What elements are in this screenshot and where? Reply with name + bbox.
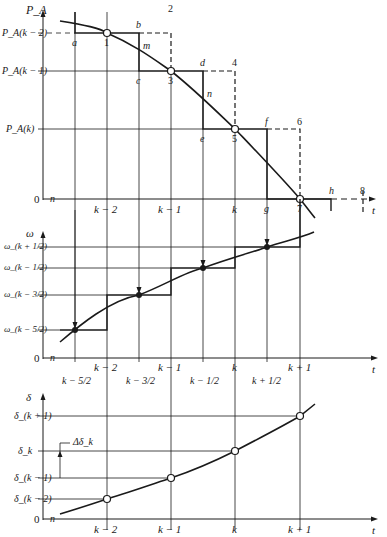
delta-delta-k-arrow bbox=[58, 451, 63, 457]
delta-y-axis-label: δ bbox=[26, 392, 31, 403]
pa-origin-label: 0 bbox=[34, 194, 40, 205]
omega-y-axis-label: ω bbox=[26, 228, 34, 239]
pa-step-dashed-4 bbox=[203, 71, 235, 129]
omega-tick-k-3/2: ω_(k − 3/2) bbox=[4, 290, 47, 299]
pa-curve bbox=[60, 21, 315, 218]
delta-x-tick-k: k bbox=[232, 524, 237, 535]
pa-tick-k-1: P_A(k − 1) bbox=[2, 66, 47, 76]
omega-x-tick-k+1: k + 1 bbox=[288, 362, 311, 373]
omega-dot-k-1/2 bbox=[200, 265, 206, 271]
point-label-e: e bbox=[200, 134, 204, 144]
point-1 bbox=[104, 30, 111, 37]
pa-x-tick-k-2: k − 2 bbox=[94, 204, 117, 215]
omega-tick-k+1/2: ω_(k + 1/2) bbox=[4, 242, 47, 251]
delta-x-axis-arrow bbox=[371, 517, 378, 522]
omega-half-tick-k+1/2: k + 1/2 bbox=[252, 376, 281, 386]
pa-tick-k: P_A(k) bbox=[6, 124, 34, 134]
delta-x-tick-k-1: k − 1 bbox=[158, 524, 181, 535]
point-label-b: b bbox=[136, 20, 141, 30]
omega-origin-marker: n bbox=[50, 353, 55, 363]
pa-step-dashed-6 bbox=[267, 129, 300, 199]
point-label-7: 7 bbox=[297, 204, 302, 214]
omega-y-axis-arrow bbox=[41, 231, 46, 238]
delta-tick-k-1: δ_(k − 1) bbox=[14, 473, 52, 483]
intersection-label-m: m bbox=[143, 41, 150, 51]
delta-x-axis-label: t bbox=[372, 525, 375, 536]
omega-x-axis-arrow bbox=[371, 356, 378, 361]
point-label-4: 4 bbox=[232, 58, 237, 68]
omega-x-tick-k-2: k − 2 bbox=[94, 362, 117, 373]
omega-x-axis-label: t bbox=[372, 364, 375, 375]
delta-point-k-1 bbox=[168, 475, 175, 482]
omega-half-tick-k-5/2: k − 5/2 bbox=[62, 376, 91, 386]
omega-origin-label: 0 bbox=[34, 353, 40, 364]
pa-x-tick-k-1: k − 1 bbox=[158, 204, 181, 215]
pa-tick-k-2: P_A(k − 2) bbox=[2, 28, 47, 38]
point-label-1: 1 bbox=[104, 38, 109, 48]
omega-half-tick-k-1/2: k − 1/2 bbox=[190, 376, 219, 386]
delta-tick-k+1: δ_(k + 1) bbox=[14, 411, 52, 421]
point-3 bbox=[168, 68, 175, 75]
omega-step-function bbox=[60, 199, 300, 330]
delta-tick-k-2: δ_(k − 2) bbox=[14, 494, 52, 504]
delta-delta-k-annotation: Δδ_k bbox=[73, 437, 93, 447]
delta-curve bbox=[60, 404, 315, 514]
point-5 bbox=[232, 126, 239, 133]
omega-x-tick-k: k bbox=[232, 362, 237, 373]
delta-point-k-2 bbox=[104, 496, 111, 503]
delta-y-axis-arrow bbox=[41, 393, 46, 400]
pa-origin-marker: n bbox=[50, 194, 55, 204]
omega-dot-k+1/2 bbox=[264, 244, 270, 250]
point-label-8: 8 bbox=[360, 186, 365, 196]
omega-x-tick-k-1: k − 1 bbox=[158, 362, 181, 373]
delta-origin-marker: n bbox=[50, 514, 55, 524]
omega-tick-k-1/2: ω_(k − 1/2) bbox=[4, 263, 47, 272]
omega-tick-k-5/2: ω_(k − 5/2) bbox=[4, 325, 47, 334]
point-label-g: g bbox=[264, 204, 269, 214]
pa-x-axis-label: t bbox=[372, 205, 375, 216]
delta-x-tick-k+1: k + 1 bbox=[288, 524, 311, 535]
point-label-a: a bbox=[72, 38, 77, 48]
step-by-step-swing-curve-diagram bbox=[0, 0, 387, 537]
point-label-d: d bbox=[200, 58, 205, 68]
point-label-f: f bbox=[265, 117, 268, 127]
delta-delta-k-bracket bbox=[60, 443, 70, 478]
delta-point-k+1 bbox=[297, 413, 304, 420]
delta-tick-k: δ_k bbox=[18, 446, 32, 456]
point-label-h: h bbox=[329, 186, 334, 196]
omega-half-tick-k-3/2: k − 3/2 bbox=[126, 376, 155, 386]
delta-origin-label: 0 bbox=[34, 514, 40, 525]
omega-dot-k-5/2 bbox=[72, 327, 78, 333]
bottom-panel-angle-chart bbox=[38, 393, 378, 522]
pa-y-axis-label: P_A bbox=[26, 4, 47, 16]
pa-x-axis-arrow bbox=[369, 197, 376, 202]
delta-point-k bbox=[232, 448, 239, 455]
middle-panel-speed-chart bbox=[38, 199, 378, 362]
point-label-2: 2 bbox=[168, 4, 173, 14]
intersection-label-n: n bbox=[207, 89, 212, 99]
point-label-6: 6 bbox=[297, 117, 302, 127]
point-label-c: c bbox=[136, 76, 140, 86]
point-label-5: 5 bbox=[232, 134, 237, 144]
delta-x-tick-k-2: k − 2 bbox=[94, 524, 117, 535]
pa-x-tick-k: k bbox=[232, 204, 237, 215]
omega-dot-k-3/2 bbox=[136, 292, 142, 298]
omega-curve bbox=[60, 232, 314, 342]
point-label-3: 3 bbox=[168, 76, 173, 86]
